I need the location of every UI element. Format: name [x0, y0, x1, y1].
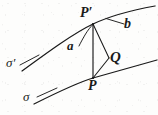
label-point-p-prime: P′ [80, 6, 93, 20]
label-direction-b: b [124, 17, 131, 31]
label-curve-sigma-prime: σ′ [6, 56, 15, 69]
geometry-figure: P′ P Q a b σ′ σ [0, 0, 158, 115]
segment-pprime-to-q [93, 24, 109, 58]
label-point-p: P [88, 79, 97, 93]
label-direction-a: a [67, 39, 74, 52]
leader-line-b [106, 19, 124, 25]
label-point-q: Q [110, 50, 121, 65]
label-curve-sigma: σ [23, 90, 29, 103]
segment-q-to-p [93, 58, 109, 78]
leader-line-sigma [37, 88, 57, 97]
point-marker-p-prime [92, 23, 94, 25]
